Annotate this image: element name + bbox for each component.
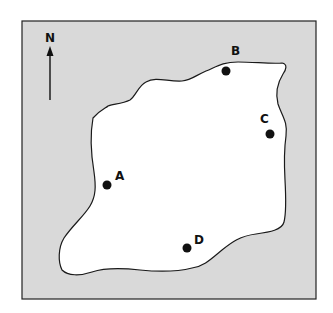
point-a-dot — [103, 181, 112, 190]
point-b-dot — [222, 67, 231, 76]
point-d-label: D — [194, 233, 204, 247]
point-b-label: B — [231, 44, 240, 58]
north-label: N — [45, 31, 55, 45]
map-diagram: N A B C D — [0, 0, 333, 313]
point-a-label: A — [115, 169, 125, 183]
point-c-dot — [266, 130, 275, 139]
point-c-label: C — [260, 112, 269, 126]
point-d-dot — [183, 244, 192, 253]
